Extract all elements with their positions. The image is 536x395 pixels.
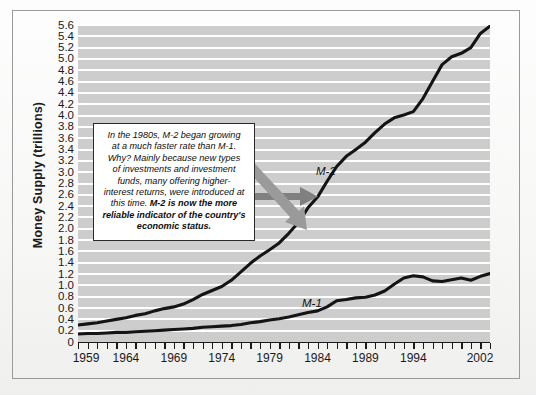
x-tick [260,343,261,349]
x-tick [433,343,434,349]
x-tick [308,343,309,349]
y-tick-label: 0.8 [46,291,74,303]
x-tick-label: 2002 [467,351,494,365]
y-tick-label: 0.2 [46,325,74,337]
x-tick [250,343,251,349]
x-tick-label: 1974 [208,351,235,365]
x-tick [203,343,204,349]
x-tick [490,343,491,349]
x-tick [107,343,108,349]
x-tick-label: 1959 [73,351,100,365]
y-axis-tick-labels: 5.65.45.25.04.84.64.44.24.03.83.63.43.23… [44,25,74,342]
x-tick-label: 1979 [256,351,283,365]
x-tick [375,343,376,349]
x-tick [78,343,79,349]
x-axis-tick-labels: 195919641969197419791984198919942002 [78,351,490,369]
callout-line-6: this time. [111,198,147,208]
x-tick [241,343,242,349]
x-tick [135,343,136,349]
x-tick [394,343,395,349]
x-tick-label: 1989 [352,351,379,365]
x-tick [88,343,89,349]
series-label-m1: M-1 [302,297,322,309]
x-tick [337,343,338,349]
callout-line-1: at a much faster rate than M-1. [101,141,247,152]
x-tick [365,343,366,349]
x-tick [212,343,213,349]
x-tick [452,343,453,349]
x-tick [346,343,347,349]
x-tick [289,343,290,349]
x-tick [116,343,117,349]
x-tick [442,343,443,349]
x-tick [404,343,405,349]
x-tick [164,343,165,349]
x-tick-label: 1964 [113,351,140,365]
x-tick [461,343,462,349]
x-tick [231,343,232,349]
x-tick [279,343,280,349]
x-tick [471,343,472,349]
y-axis-title: Money Supply (trillions) [31,75,45,275]
callout-line-5: interest returns, were introduced at [101,187,247,198]
x-tick [480,343,481,349]
x-tick [423,343,424,349]
x-tick [183,343,184,349]
x-tick [413,343,414,349]
x-tick [356,343,357,349]
chart-figure: Money Supply (trillions) 5.65.45.25.04.8… [0,0,536,395]
callout-line-3: of investments and investment [101,164,247,175]
y-tick-label: 0 [46,337,74,349]
callout-line-4: funds, many offering higher- [101,176,247,187]
series-label-m2: M-2 [316,165,336,177]
x-tick-label: 1969 [160,351,187,365]
x-tick-label: 1984 [304,351,331,365]
x-tick [298,343,299,349]
x-tick [174,343,175,349]
x-tick [318,343,319,349]
callout-emphasis-row: this time. M-2 is now the more reliable … [101,198,247,232]
x-tick [155,343,156,349]
x-tick [193,343,194,349]
x-tick [145,343,146,349]
x-axis [78,342,490,351]
x-tick [97,343,98,349]
callout-box: In the 1980s, M-2 began growing at a muc… [93,123,255,241]
callout-line-2: Why? Mainly because new types [101,153,247,164]
callout-line-0: In the 1980s, M-2 began growing [101,130,247,141]
x-tick-label: 1994 [400,351,427,365]
x-tick [385,343,386,349]
x-tick [327,343,328,349]
x-tick [126,343,127,349]
x-tick [222,343,223,349]
x-tick [270,343,271,349]
